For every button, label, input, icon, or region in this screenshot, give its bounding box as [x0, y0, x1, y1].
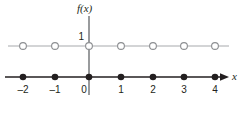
x-tick-label: 0	[81, 84, 87, 95]
x-tick-label: 4	[212, 84, 218, 95]
x-tick-label: 3	[181, 84, 187, 95]
open-circle-marker	[52, 43, 59, 50]
open-circle-marker	[212, 43, 219, 50]
x-tick-label: –2	[17, 84, 29, 95]
x-tick-label: 2	[150, 84, 156, 95]
y-axis-label: f(x)	[77, 2, 93, 15]
filled-dot-marker	[52, 74, 59, 81]
function-graph-figure: f(x) x 1 –2 –1 0 1 2 3 4	[0, 0, 245, 113]
filled-dot-marker	[181, 74, 188, 81]
filled-dot-marker	[86, 74, 93, 81]
plot-canvas: f(x) x 1 –2 –1 0 1 2 3 4	[0, 0, 245, 113]
filled-dot-marker	[118, 74, 125, 81]
open-circle-marker	[181, 43, 188, 50]
x-tick-label: –1	[49, 84, 61, 95]
open-circle-marker	[118, 43, 125, 50]
x-tick-label: 1	[118, 84, 124, 95]
filled-dot-marker	[150, 74, 157, 81]
filled-dot-marker	[212, 74, 219, 81]
x-axis-arrowhead	[220, 73, 229, 81]
y-value-label: 1	[78, 31, 84, 42]
open-circle-marker	[150, 43, 157, 50]
filled-dot-marker	[20, 74, 27, 81]
open-circle-marker	[86, 43, 93, 50]
open-circle-marker	[20, 43, 27, 50]
x-axis-label: x	[231, 70, 237, 82]
